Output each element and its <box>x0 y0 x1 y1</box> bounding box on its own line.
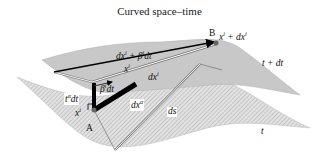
dx-i-label: dxi <box>148 71 159 83</box>
point-B-coord: xi + dxi <box>219 31 247 43</box>
dx-alpha-label: dxα <box>130 99 144 111</box>
point-B <box>214 41 219 46</box>
point-A-coord: xi <box>75 107 81 119</box>
t-alpha-dt-label: tαdt <box>64 93 79 105</box>
spacetime-diagram <box>0 0 319 153</box>
point-A <box>92 108 97 113</box>
surface-t-label: t <box>261 127 264 137</box>
ds-label: ds <box>167 107 177 117</box>
x-i-mid-label: xi <box>124 63 130 75</box>
point-B-label: B <box>209 29 215 39</box>
dx-plus-beta-label: dxi + βidt <box>116 50 152 62</box>
point-A-label: A <box>86 124 93 134</box>
diagram-title: Curved space–time <box>0 5 319 17</box>
surface-t-plus-dt-label: t + dt <box>262 59 283 69</box>
beta-dt-label: βidt <box>100 83 114 95</box>
